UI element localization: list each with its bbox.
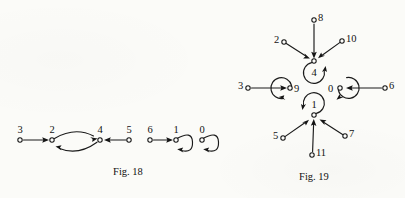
figure-19: 8 2 10: [238, 12, 394, 183]
node-label: 0: [328, 83, 333, 94]
node-dot: [282, 40, 286, 44]
node-label: 5: [126, 124, 131, 135]
node-label: 7: [349, 128, 354, 139]
edge-2-to-4-arc: [55, 132, 98, 142]
node-2-fig18: 2: [49, 124, 54, 142]
node-dot: [127, 138, 131, 142]
node-dot: [148, 138, 152, 142]
node-dot: [343, 134, 347, 138]
node-label: 11: [316, 147, 326, 158]
edge-3-to-2: [24, 137, 50, 143]
self-loop-arrowhead: [203, 148, 209, 153]
node-dot: [312, 113, 316, 117]
edge-7-to-1: [320, 120, 343, 135]
node-2-fig19: 2: [274, 34, 286, 45]
node-6-fig19: 6: [383, 80, 394, 91]
node-dot: [312, 59, 316, 63]
node-0-fig19: 0: [328, 83, 342, 94]
figure-caption-19: Fig. 19: [299, 171, 329, 182]
node-dot: [312, 18, 316, 22]
node-4-fig19: 4: [311, 59, 317, 78]
node-0-fig18: 0: [199, 124, 218, 153]
node-label: 3: [17, 124, 22, 135]
node-1-fig18: 1: [173, 124, 192, 153]
edge-6-to-0: [346, 85, 382, 91]
node-dot: [383, 86, 387, 90]
figure-18: 3 2: [17, 124, 218, 177]
node-label: 4: [311, 67, 317, 78]
node-label: 2: [49, 124, 54, 135]
node-dot: [310, 153, 314, 157]
node-dot: [338, 86, 342, 90]
edge-4-to-2-arc: [56, 142, 98, 151]
node-3-fig18: 3: [17, 124, 22, 142]
node-label: 1: [173, 124, 178, 135]
node-dot: [50, 138, 54, 142]
edge-5-to-1: [285, 120, 309, 137]
node-5-fig18: 5: [126, 124, 131, 142]
node-dot: [174, 138, 178, 142]
node-dot: [246, 86, 250, 90]
node-dot: [281, 136, 285, 140]
node-label: 4: [97, 124, 103, 135]
node-label: 0: [199, 124, 204, 135]
node-1-fig19: 1: [311, 99, 316, 117]
edge-10-to-4: [318, 43, 340, 59]
node-label: 3: [238, 80, 243, 91]
node-label: 10: [346, 33, 357, 44]
node-5-fig19: 5: [273, 130, 285, 141]
node-dot: [340, 39, 344, 43]
node-8-fig19: 8: [312, 12, 323, 23]
edge-5-to-4: [104, 137, 126, 143]
node-dot: [18, 138, 22, 142]
edge-2-to-4: [286, 44, 310, 59]
node-label: 6: [147, 124, 152, 135]
node-dot: [288, 86, 292, 90]
node-10-fig19: 10: [340, 33, 357, 44]
self-loop-arrowhead: [177, 148, 183, 153]
figures-canvas: 3 2: [0, 0, 405, 198]
node-label: 6: [389, 80, 394, 91]
node-7-fig19: 7: [343, 128, 354, 139]
node-4-fig18: 4: [97, 124, 103, 142]
node-dot: [98, 138, 102, 142]
edge-8-to-4: [311, 24, 317, 59]
node-label: 2: [274, 34, 279, 45]
node-9-fig19: 9: [288, 83, 299, 94]
node-3-fig19: 3: [238, 80, 250, 91]
node-dot: [200, 138, 204, 142]
node-label: 1: [311, 99, 316, 110]
node-label: 9: [294, 83, 299, 94]
edge-6-to-1: [154, 137, 174, 143]
figure-caption-18: Fig. 18: [113, 166, 143, 177]
edge-3-to-9: [252, 85, 288, 91]
scanned-page: 3 2: [0, 0, 405, 198]
node-6-fig18: 6: [147, 124, 152, 142]
node-label: 8: [318, 12, 323, 23]
node-label: 5: [273, 130, 278, 141]
